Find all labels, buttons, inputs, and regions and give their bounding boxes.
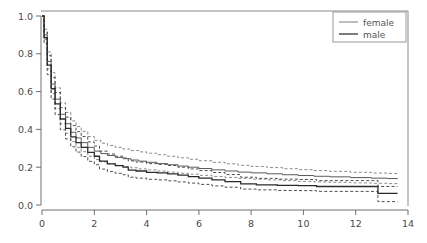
x-tick-label: 14 [402,218,414,229]
legend-label-male: male [363,30,386,40]
y-tick-label: 0.2 [18,162,33,173]
x-tick-label: 4 [144,218,150,229]
y-tick-label: 0.6 [18,86,33,97]
y-tick-label: 0.0 [18,200,33,211]
x-tick-label: 12 [350,218,362,229]
x-tick-label: 10 [297,218,309,229]
y-tick-label: 1.0 [18,11,33,22]
legend-label-female: female [363,18,394,28]
x-tick-label: 0 [39,218,45,229]
y-tick-label: 0.8 [18,48,33,59]
survival-curve-figure: 1.0 0.8 0.6 0.4 0.2 0.0 0 [0,0,427,243]
chart-canvas: 1.0 0.8 0.6 0.4 0.2 0.0 0 [0,0,427,243]
x-tick-label: 8 [248,218,254,229]
x-tick-label: 6 [196,218,202,229]
x-tick-label: 2 [91,218,97,229]
y-tick-label: 0.4 [18,124,33,135]
